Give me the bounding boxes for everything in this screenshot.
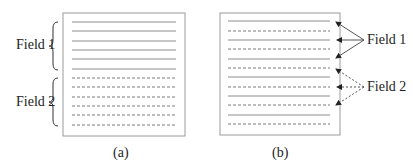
field1-lines-a bbox=[72, 22, 176, 69]
field2-lines-a bbox=[72, 78, 176, 125]
label-field1-a: Field 1 bbox=[16, 37, 55, 53]
panel-a bbox=[49, 13, 185, 136]
label-field2-b: Field 2 bbox=[367, 79, 406, 95]
label-field1-b: Field 1 bbox=[367, 32, 406, 48]
interlace-diagram bbox=[0, 0, 413, 167]
caption-b: (b) bbox=[272, 145, 288, 161]
label-field2-a: Field 2 bbox=[16, 94, 55, 110]
panel-b bbox=[220, 13, 364, 135]
caption-a: (a) bbox=[113, 145, 129, 161]
